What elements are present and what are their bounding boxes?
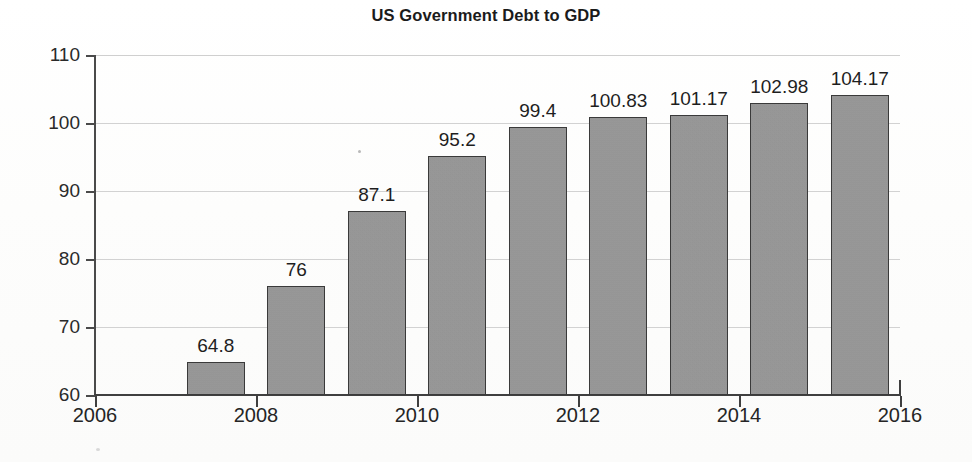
bar-texture <box>590 118 646 394</box>
bar-texture <box>671 116 727 394</box>
y-tick-60 <box>86 395 95 397</box>
x-axis-end-cap <box>899 380 901 396</box>
y-tick-label-100: 100 <box>36 112 80 134</box>
bar-2009[interactable] <box>348 211 406 395</box>
x-tick-label-2012: 2012 <box>518 404 638 427</box>
y-tick-label-80: 80 <box>36 248 80 270</box>
y-tick-110 <box>86 55 95 57</box>
bar-texture <box>349 212 405 394</box>
bar-value-label-2010: 95.2 <box>387 129 527 151</box>
bar-texture <box>832 96 888 394</box>
chart-canvas: US Government Debt to GDP 11010090807060… <box>0 0 972 462</box>
x-tick-label-2008: 2008 <box>196 404 316 427</box>
bar-value-label-2009: 87.1 <box>307 184 447 206</box>
y-tick-100 <box>86 123 95 125</box>
bar-2015[interactable] <box>831 95 889 395</box>
y-axis-line <box>94 55 96 396</box>
bar-2012[interactable] <box>589 117 647 395</box>
bar-value-label-2015: 104.17 <box>790 68 930 90</box>
y-tick-label-group: 11010090807060 <box>28 0 80 462</box>
y-tick-80 <box>86 259 95 261</box>
chart-title: US Government Debt to GDP <box>0 6 972 25</box>
y-tick-70 <box>86 327 95 329</box>
bar-texture <box>188 363 244 394</box>
x-tick-label-2016: 2016 <box>840 404 960 427</box>
scan-speck <box>358 150 361 153</box>
y-tick-label-90: 90 <box>36 180 80 202</box>
bar-2007[interactable] <box>187 362 245 395</box>
y-tick-label-70: 70 <box>36 316 80 338</box>
x-tick-label-2014: 2014 <box>679 404 799 427</box>
y-tick-label-60: 60 <box>36 384 80 406</box>
bar-texture <box>751 104 807 394</box>
bar-2014[interactable] <box>750 103 808 395</box>
y-tick-label-110: 110 <box>36 44 80 66</box>
gridline-110 <box>95 55 900 56</box>
scan-speck <box>96 448 100 451</box>
x-tick-label-2006: 2006 <box>35 404 155 427</box>
bar-value-label-2007: 64.8 <box>146 335 286 357</box>
x-tick-label-2010: 2010 <box>357 404 477 427</box>
bar-value-label-2008: 76 <box>226 259 366 281</box>
bar-texture <box>510 128 566 394</box>
y-tick-90 <box>86 191 95 193</box>
bar-2011[interactable] <box>509 127 567 395</box>
bar-2013[interactable] <box>670 115 728 395</box>
